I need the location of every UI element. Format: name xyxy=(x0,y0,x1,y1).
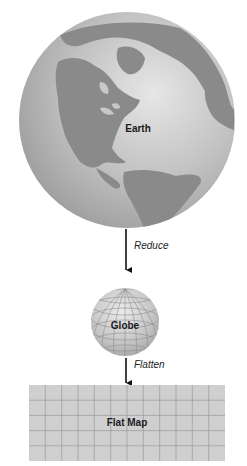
flat-map-label: Flat Map xyxy=(107,417,148,428)
flatten-step-label: Flatten xyxy=(134,359,165,370)
diagram-canvas xyxy=(0,0,247,466)
globe-label: Globe xyxy=(111,320,139,331)
reduce-step-label: Reduce xyxy=(134,240,168,251)
earth-label: Earth xyxy=(125,123,151,134)
